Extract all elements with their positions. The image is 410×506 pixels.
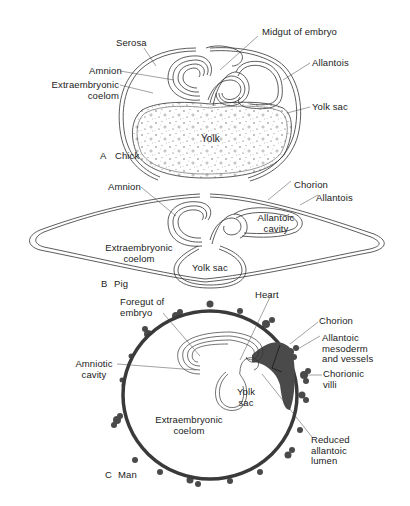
panel-letter-c: C (105, 470, 112, 481)
label-amnion: Amnion (89, 66, 122, 77)
label-extraembryonic-coelom-man: Extraembryonic coelom (152, 415, 226, 436)
label-chorion-pig: Chorion (294, 180, 328, 191)
panel-name-chick: Chick (115, 151, 139, 162)
label-foregut-of-embryo: Foregut of embryo (120, 297, 164, 318)
label-reduced-allantoic-lumen: Reduced allantoic lumen (311, 435, 350, 467)
label-allantois: Allantois (312, 58, 349, 69)
label-amnion-pig: Amnion (108, 182, 141, 193)
label-amniotic-cavity: Amniotic cavity (73, 359, 115, 380)
panel-letter-b: B (101, 279, 107, 290)
label-allantois-pig: Allantois (316, 193, 353, 204)
label-chorionic-villi: Chorionic villi (323, 369, 364, 390)
label-yolk-sac: Yolk sac (312, 102, 348, 113)
label-allantoic-mesoderm-and-vessels: Allantoic mesoderm and vessels (322, 333, 373, 365)
label-yolk-sac-man: Yolk sac (233, 387, 259, 408)
label-allantoic-cavity: Allantoic cavity (252, 213, 300, 234)
panel-name-man: Man (118, 470, 137, 481)
label-yolk-sac-pig: Yolk sac (192, 263, 228, 274)
embryonic-membranes-figure: Serosa Amnion Extraembryonic coelom Midg… (0, 0, 410, 506)
label-extraembryonic-coelom-pig: Extraembryonic coelom (104, 243, 174, 264)
label-midgut-of-embryo: Midgut of embryo (262, 27, 337, 38)
panel-b-pig (30, 194, 385, 288)
label-yolk: Yolk (201, 134, 220, 145)
panel-letter-a: A (100, 151, 106, 162)
panel-a-chick (119, 46, 300, 181)
label-serosa: Serosa (116, 38, 147, 49)
label-chorion-man: Chorion (319, 316, 353, 327)
label-extraembryonic-coelom: Extraembryonic coelom (51, 80, 119, 101)
panel-c-man (111, 301, 311, 488)
label-heart: Heart (255, 290, 279, 301)
panel-name-pig: Pig (114, 279, 128, 290)
